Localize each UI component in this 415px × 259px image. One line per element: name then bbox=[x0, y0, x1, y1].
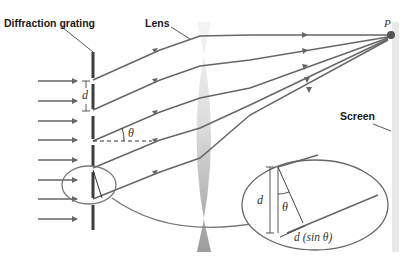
point-label: P bbox=[384, 17, 391, 29]
angle-arc bbox=[122, 128, 124, 141]
lens-leader bbox=[171, 27, 190, 39]
zoom-connector bbox=[112, 198, 262, 227]
slit-spacing-label: d bbox=[82, 88, 88, 103]
grating-label: Diffraction grating bbox=[4, 17, 95, 29]
zoom-ellipse-small bbox=[62, 166, 116, 204]
screen-leader bbox=[373, 124, 391, 131]
screen bbox=[392, 22, 399, 252]
focal-point-p bbox=[387, 31, 395, 39]
diffraction-grating-diagram: Diffraction grating Lens Screen P d θ d … bbox=[0, 0, 415, 259]
inset-theta-label: θ bbox=[282, 200, 288, 215]
grating-leader bbox=[62, 27, 93, 52]
lens bbox=[197, 22, 212, 252]
diagram-graphics bbox=[0, 0, 415, 259]
incident-light-arrows bbox=[38, 81, 77, 219]
angle-label: θ bbox=[128, 126, 134, 141]
lens-label: Lens bbox=[145, 17, 170, 29]
inset-d-label: d bbox=[257, 193, 263, 208]
path-difference-label: d (sin θ) bbox=[294, 231, 332, 243]
screen-label: Screen bbox=[340, 110, 375, 122]
